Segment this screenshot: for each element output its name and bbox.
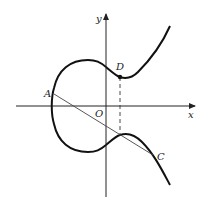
y-axis-label: y (95, 13, 102, 24)
x-axis-label: x (188, 109, 194, 120)
point-d-label: D (115, 61, 124, 72)
point-a-label: A (43, 88, 51, 99)
point-d-dot (118, 75, 122, 79)
elliptic-curve-diagram: y x O A C D (0, 0, 206, 206)
point-c-label: C (157, 151, 165, 162)
origin-label: O (95, 108, 103, 119)
